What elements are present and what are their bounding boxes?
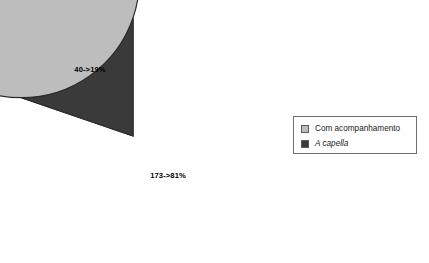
legend-label-com-acompanhamento: Com acompanhamento [315,125,400,133]
pie-slice-label-com-acompanhamento: 173->81% [150,172,186,180]
legend-swatch-icon-com-acompanhamento [301,125,309,133]
legend-label-a-capella: A capella [315,140,348,148]
legend-item-com-acompanhamento[interactable]: Com acompanhamento [301,122,416,136]
chart-canvas: 40->19% 173->81% Com acompanhamento A ca… [0,0,429,263]
pie-slice-label-a-capella: 40->19% [74,66,105,74]
legend-item-a-capella[interactable]: A capella [301,137,416,151]
legend-swatch-icon-a-capella [301,140,309,148]
chart-legend: Com acompanhamento A capella [293,116,417,154]
